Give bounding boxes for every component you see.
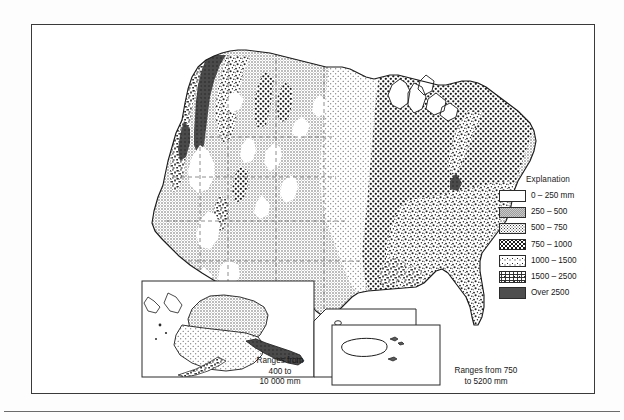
legend-label-500-750: 500 – 750 [531,224,567,232]
map-legend: Explanation 0 – 250 mm 250 – 500 500 – 7… [499,175,595,301]
legend-row[interactable]: 750 – 1000 [499,237,595,253]
legend-label-0-250: 0 – 250 mm [531,192,574,200]
caption-line: Ranges from [228,356,332,367]
legend-swatch-1500-2500 [499,271,526,283]
legend-row[interactable]: 250 – 500 [499,204,595,220]
legend-row[interactable]: 0 – 250 mm [499,188,595,204]
legend-swatch-750-1000 [499,239,526,251]
legend-title: Explanation [501,175,595,184]
legend-swatch-500-750 [499,223,526,235]
legend-swatch-0-250 [499,190,526,202]
puerto-rico-inset [332,325,440,385]
caption-line: Ranges from 750 [430,366,542,377]
legend-label-1000-1500: 1000 – 1500 [531,257,577,265]
alaska-hawaii-range-caption: Ranges from 400 to 10 000 mm [228,356,332,388]
caption-line: to 5200 mm [430,377,542,388]
legend-label-250-500: 250 – 500 [531,208,567,216]
map-figure-frame: Explanation 0 – 250 mm 250 – 500 500 – 7… [31,24,595,394]
caption-line: 10 000 mm [228,377,332,388]
legend-row[interactable]: 500 – 750 [499,220,595,236]
legend-swatch-1000-1500 [499,255,526,267]
legend-label-750-1000: 750 – 1000 [531,241,572,249]
legend-row[interactable]: 1500 – 2500 [499,269,595,285]
legend-swatch-250-500 [499,207,526,219]
legend-row[interactable]: Over 2500 [499,285,595,301]
legend-row[interactable]: 1000 – 1500 [499,253,595,269]
legend-label-over-2500: Over 2500 [531,289,569,297]
puerto-rico-range-caption: Ranges from 750 to 5200 mm [430,366,542,387]
page-horizontal-rule [4,411,620,412]
legend-swatch-over-2500 [499,287,526,299]
legend-label-1500-2500: 1500 – 2500 [531,273,577,281]
caption-line: 400 to [228,367,332,378]
